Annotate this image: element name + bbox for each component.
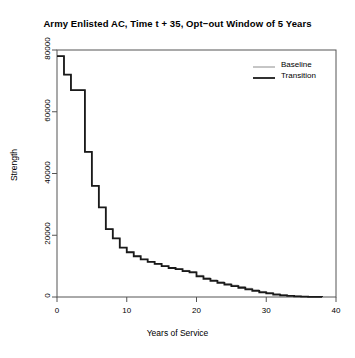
y-axis-label: Strength [9,135,19,195]
x-tick-label-0: 0 [42,306,72,315]
y-tick-label-3: 60000 [43,90,52,130]
x-tick-label-2: 20 [182,306,212,315]
plot-area [0,0,355,358]
legend-swatch-transition [253,74,275,82]
plot-frame [57,50,336,297]
y-tick-label-1: 20000 [43,214,52,254]
x-tick-label-4: 40 [321,306,351,315]
x-axis-label: Years of Service [0,328,355,338]
legend-swatch-baseline [253,63,275,71]
legend-label-baseline: Baseline [281,60,312,69]
x-tick-label-3: 30 [251,306,281,315]
y-tick-label-2: 40000 [43,152,52,192]
series-line-transition [57,56,322,297]
y-tick-label-4: 80000 [43,29,52,69]
legend-label-transition: Transition [281,71,316,80]
chart-container: Army Enlisted AC, Time t + 35, Opt−out W… [0,0,355,358]
x-tick-label-1: 10 [112,306,142,315]
series-line-baseline [57,56,322,297]
